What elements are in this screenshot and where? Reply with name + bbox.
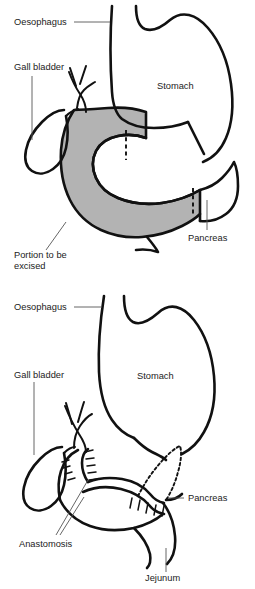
- pre-resection-diagram: Oesophagus Gall bladder Stomach Pancreas…: [14, 6, 238, 271]
- label-stomach-1: Stomach: [157, 81, 194, 91]
- label-stomach-2: Stomach: [137, 371, 174, 381]
- label-oesophagus-1: Oesophagus: [14, 17, 67, 27]
- anatomy-figure: Oesophagus Gall bladder Stomach Pancreas…: [0, 0, 255, 589]
- label-gall-bladder-2: Gall bladder: [14, 370, 64, 380]
- leader-portion-excised: [46, 222, 66, 250]
- hepatic-duct-right-2: [78, 402, 84, 422]
- hepatic-duct-right: [80, 66, 86, 84]
- gastric-outlet-outline: [134, 438, 166, 460]
- jejunum-distal-hook: [134, 528, 150, 568]
- leader-anastomosis-a: [56, 480, 88, 535]
- label-pancreas-1: Pancreas: [188, 233, 228, 243]
- label-jejunum: Jejunum: [145, 573, 180, 583]
- duodenum-inner-curve: [93, 135, 200, 204]
- pancreas-tail-outline: [200, 162, 238, 221]
- excised-portion-shape: [61, 108, 200, 238]
- hepatic-duct-junction-2: [65, 406, 86, 452]
- label-pancreas-2: Pancreas: [188, 493, 228, 503]
- label-gall-bladder-1: Gall bladder: [14, 62, 64, 72]
- label-portion-excised-line2: excised: [14, 261, 46, 271]
- post-reconstruction-diagram: Oesophagus Gall bladder Stomach Pancreas…: [14, 296, 228, 583]
- suture-gastrojejunostomy: [85, 450, 97, 480]
- jejunum-lower-limb: [83, 487, 164, 514]
- figure-root: Oesophagus Gall bladder Stomach Pancreas…: [0, 0, 255, 589]
- label-anastomosis: Anastomosis: [19, 539, 73, 549]
- label-portion-excised-line1: Portion to be: [14, 250, 67, 260]
- label-oesophagus-2: Oesophagus: [14, 302, 67, 312]
- leader-anastomosis-b: [60, 497, 84, 535]
- jejunum-distal-descending: [163, 503, 175, 564]
- pancreas-remnant-dotted: [138, 446, 181, 500]
- jejunum-transection-marker: [136, 237, 158, 252]
- pylorus-outline: [188, 122, 204, 154]
